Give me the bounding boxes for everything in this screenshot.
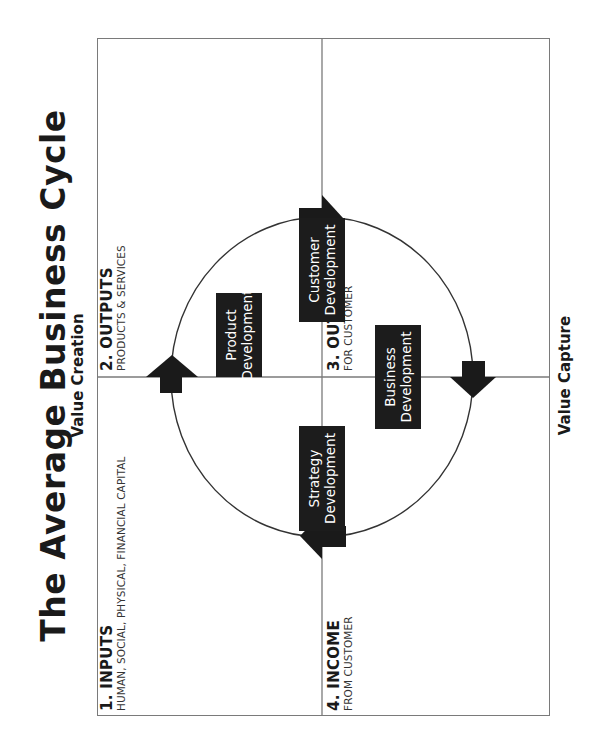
quadrant-subheading: HUMAN, SOCIAL, PHYSICAL, FINANCIAL CAPIT… bbox=[116, 457, 127, 711]
box-line1: Customer bbox=[306, 237, 322, 303]
cycle-graphic bbox=[0, 0, 603, 751]
box-line1: Product bbox=[223, 309, 239, 360]
arrow-left-icon bbox=[450, 361, 496, 398]
quadrant-heading: 4. INCOME bbox=[327, 616, 343, 711]
box-business-development: Business Development bbox=[375, 325, 421, 429]
quadrant-income: 4. INCOME FROM CUSTOMER bbox=[327, 616, 354, 711]
quadrant-inputs: 1. INPUTS HUMAN, SOCIAL, PHYSICAL, FINAN… bbox=[100, 457, 127, 711]
box-customer-development: Customer Development bbox=[299, 218, 345, 322]
box-line2: Development bbox=[322, 225, 338, 316]
quadrant-heading: 1. INPUTS bbox=[100, 457, 116, 711]
arrow-right-icon bbox=[146, 355, 198, 393]
box-line1: Strategy bbox=[306, 450, 322, 508]
quadrant-heading: 2. OUTPUTS bbox=[100, 245, 116, 371]
quadrant-outputs: 2. OUTPUTS PRODUCTS & SERVICES bbox=[100, 245, 127, 371]
quadrant-subheading: FROM CUSTOMER bbox=[343, 616, 354, 711]
box-line1: Business bbox=[382, 347, 398, 407]
business-cycle-diagram: The Average Business Cycle Value Creatio… bbox=[0, 0, 603, 751]
box-line2: Development bbox=[239, 290, 255, 381]
box-line2: Development bbox=[322, 433, 338, 524]
quadrant-subheading: PRODUCTS & SERVICES bbox=[116, 245, 127, 371]
box-product-development: Product Development bbox=[216, 293, 262, 377]
box-strategy-development: Strategy Development bbox=[299, 426, 345, 531]
box-line2: Development bbox=[398, 332, 414, 423]
